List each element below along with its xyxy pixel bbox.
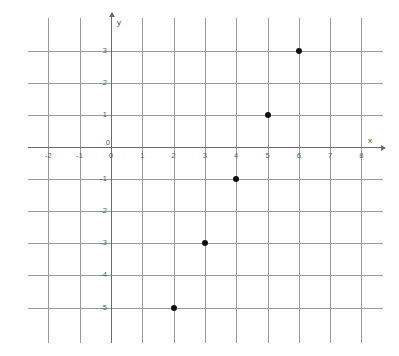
grid-line-horizontal bbox=[28, 211, 383, 212]
x-tick-label: 5 bbox=[258, 151, 278, 160]
x-tick-label: 6 bbox=[289, 151, 309, 160]
coordinate-plane-chart: -2-1012345678 321-1-2-3-4-5 0 x y bbox=[0, 0, 399, 356]
y-tick-label: 2 bbox=[89, 78, 107, 87]
x-axis-line bbox=[28, 147, 382, 148]
x-tick-label: -1 bbox=[70, 151, 90, 160]
x-axis-label: x bbox=[368, 136, 372, 145]
data-point bbox=[171, 305, 177, 311]
data-point bbox=[233, 176, 239, 182]
y-tick-label: -4 bbox=[89, 270, 107, 279]
x-tick-label: -2 bbox=[38, 151, 58, 160]
x-tick-label: 8 bbox=[351, 151, 371, 160]
grid-line-horizontal bbox=[28, 115, 383, 116]
x-tick-label: 2 bbox=[164, 151, 184, 160]
y-tick-label: 3 bbox=[89, 46, 107, 55]
y-tick-label: -5 bbox=[89, 303, 107, 312]
grid-line-vertical bbox=[48, 18, 49, 343]
grid-line-vertical bbox=[80, 18, 81, 343]
grid-line-horizontal bbox=[28, 51, 383, 52]
origin-label: 0 bbox=[92, 138, 110, 147]
y-axis-arrow-icon bbox=[109, 12, 115, 17]
x-tick-label: 1 bbox=[132, 151, 152, 160]
grid-line-horizontal bbox=[28, 179, 383, 180]
y-tick-label: 1 bbox=[89, 110, 107, 119]
grid-line-horizontal bbox=[28, 83, 383, 84]
x-tick-label: 0 bbox=[101, 151, 121, 160]
x-tick-label: 3 bbox=[195, 151, 215, 160]
y-tick-label: -3 bbox=[89, 238, 107, 247]
grid-line-vertical bbox=[330, 18, 331, 343]
grid-line-horizontal bbox=[28, 275, 383, 276]
grid-line-vertical bbox=[361, 18, 362, 343]
y-axis-label: y bbox=[117, 18, 121, 27]
x-tick-label: 4 bbox=[226, 151, 246, 160]
grid-line-horizontal bbox=[28, 308, 383, 309]
grid-line-vertical bbox=[205, 18, 206, 343]
y-tick-label: -1 bbox=[89, 174, 107, 183]
data-point bbox=[265, 112, 271, 118]
grid-line-vertical bbox=[268, 18, 269, 343]
x-axis-arrow-icon bbox=[381, 145, 386, 151]
data-point bbox=[202, 240, 208, 246]
x-tick-label: 7 bbox=[320, 151, 340, 160]
y-tick-label: -2 bbox=[89, 206, 107, 215]
grid-line-vertical bbox=[299, 18, 300, 343]
grid-line-vertical bbox=[142, 18, 143, 343]
y-axis-line bbox=[111, 16, 112, 343]
data-point bbox=[296, 48, 302, 54]
grid-line-vertical bbox=[174, 18, 175, 343]
